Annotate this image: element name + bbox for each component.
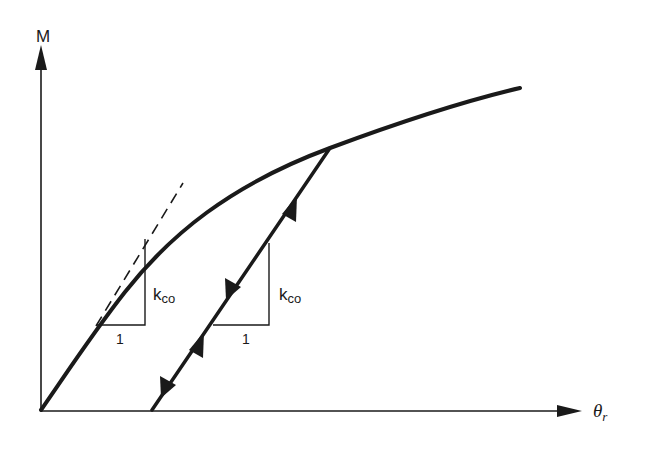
axes	[35, 45, 582, 417]
x-axis-label-subscript: r	[602, 409, 608, 424]
y-axis-label: M	[36, 27, 50, 46]
x-axis-arrow-icon	[557, 405, 582, 417]
unloading-line	[152, 148, 330, 410]
slope-triangle-initial: kco 1	[97, 239, 175, 347]
slope-triangle-unloading-legs	[213, 243, 269, 325]
initial-stiffness-label: kco	[153, 285, 175, 306]
x-axis-label-main: θ	[593, 400, 602, 421]
unloading-run-label: 1	[242, 331, 250, 347]
loading-curve	[41, 88, 520, 410]
x-axis-label: θr	[593, 400, 608, 424]
y-axis-arrow-icon	[35, 45, 47, 70]
initial-run-label: 1	[116, 331, 124, 347]
moment-rotation-diagram: M θr kco 1 kco 1	[0, 0, 647, 456]
unloading-stiffness-label: kco	[279, 285, 301, 306]
slope-triangle-initial-legs	[97, 239, 145, 325]
